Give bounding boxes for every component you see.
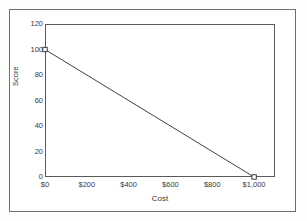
y-axis-title: Score (11, 66, 20, 86)
x-axis-tick-labels: $0$200$400$600$800$1,000 (0, 0, 307, 221)
x-tick-label: $800 (204, 180, 221, 189)
x-axis-title: Cost (152, 194, 168, 203)
x-tick-label: $200 (78, 180, 95, 189)
x-tick-label: $400 (120, 180, 137, 189)
x-tick-label: $1,000 (243, 180, 266, 189)
x-tick-label: $0 (41, 180, 49, 189)
x-tick-label: $600 (162, 180, 179, 189)
